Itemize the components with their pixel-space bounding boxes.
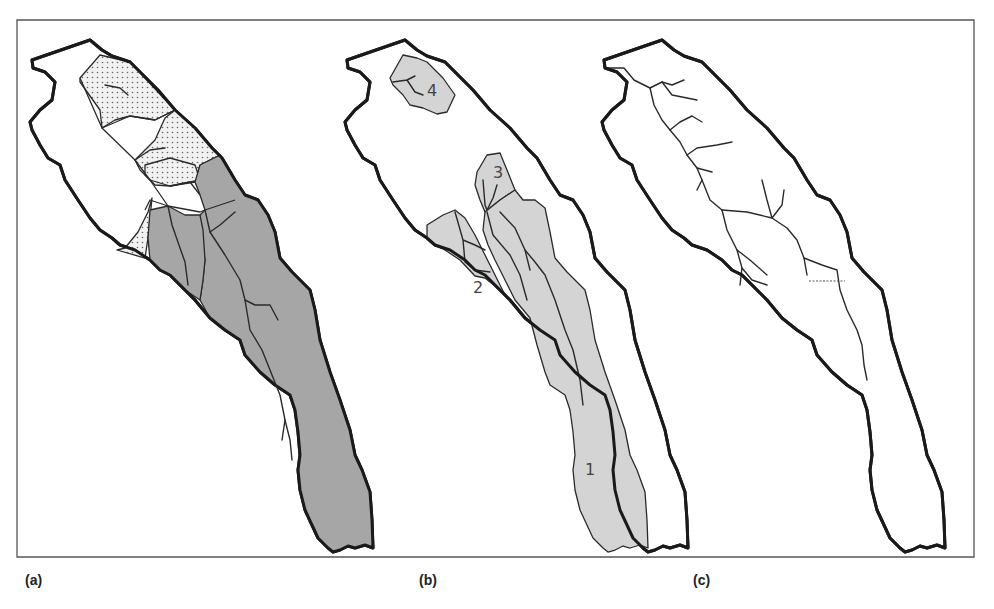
panel-label-a: (a)	[25, 572, 42, 588]
dark-subarea-upper	[195, 155, 373, 552]
panel-label-c: (c)	[693, 572, 710, 588]
subcatchment-label-2: 2	[473, 278, 483, 297]
dark-subarea-lower	[148, 206, 205, 300]
panel-a-map	[30, 40, 373, 552]
subcatchment-label-1: 1	[585, 460, 595, 479]
subcatchment-label-3: 3	[493, 163, 503, 182]
panel-label-b: (b)	[419, 572, 437, 588]
catchment-figure: 4 3 2 1	[0, 0, 994, 609]
subcatchment-label-4: 4	[427, 81, 437, 100]
